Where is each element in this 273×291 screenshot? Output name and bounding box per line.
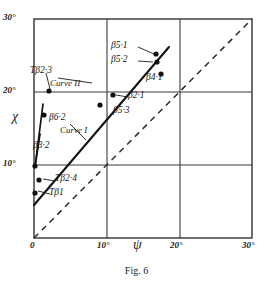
point-b52 bbox=[154, 59, 159, 64]
annotation-b52: β5·2 bbox=[111, 55, 128, 65]
annotation-b32: β3·2 bbox=[33, 141, 50, 151]
point-b21 bbox=[110, 92, 115, 97]
annotation-b21: β2·1 bbox=[128, 91, 145, 101]
point-tb24 bbox=[36, 177, 41, 182]
figure-caption: Fig. 6 bbox=[0, 266, 273, 276]
figure-6: 30° 20° 10° χ 0 10° 20° 30° ψ β5·1 β5·2 … bbox=[0, 0, 273, 291]
annotation-b53: β5·3 bbox=[113, 106, 130, 116]
annotation-tb1: Tβ1 bbox=[49, 188, 64, 198]
point-b51 bbox=[153, 51, 158, 56]
annotation-b62: β6·2 bbox=[49, 113, 66, 123]
x-tick-10: 10° bbox=[97, 241, 110, 250]
annotation-tb24: Tβ2·4 bbox=[55, 174, 77, 184]
y-tick-20: 20° bbox=[3, 86, 16, 95]
curve-label-ii: Curve II bbox=[50, 79, 80, 88]
y-tick-10: 10° bbox=[3, 159, 16, 168]
annotation-b41: β4·1 bbox=[146, 73, 163, 83]
point-b62 bbox=[41, 112, 46, 117]
annotation-tb23: Tβ2·3 bbox=[30, 66, 52, 76]
x-tick-20: 20° bbox=[170, 241, 183, 250]
point-b32 bbox=[32, 163, 37, 168]
x-tick-30: 30° bbox=[242, 241, 255, 250]
annotation-b51: β5·1 bbox=[111, 41, 128, 51]
point-b53 bbox=[97, 102, 102, 107]
x-axis-label: ψ bbox=[133, 238, 142, 252]
point-tb23 bbox=[46, 88, 51, 93]
x-tick-0: 0 bbox=[30, 241, 35, 250]
curve-label-i: Curve I bbox=[60, 126, 87, 135]
y-axis-label: χ bbox=[12, 110, 18, 124]
point-tb1 bbox=[32, 190, 37, 195]
y-tick-30: 30° bbox=[3, 13, 16, 22]
